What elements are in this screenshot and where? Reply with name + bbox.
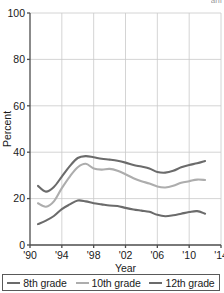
chart-figure: ani 020406080100'90'94'98'02'06'10'14Yea… [0,0,224,293]
y-tick-label: 100 [7,7,25,19]
x-tick-label: '94 [55,249,69,261]
y-tick-label: 40 [13,146,25,158]
x-tick-label: '90 [23,249,37,261]
legend-swatch-8th-grade [7,282,20,284]
x-axis-title: Year [115,262,137,272]
y-tick-label: 80 [13,53,25,65]
legend-label-8th-grade: 8th grade [23,277,66,289]
legend-swatch-12th-grade [149,282,162,284]
legend-entry-8th-grade: 8th grade [7,277,66,289]
y-axis-title: Percent [1,111,13,147]
legend-label-12th-grade: 12th grade [165,277,214,289]
line-chart: 020406080100'90'94'98'02'06'10'14YearPer… [0,0,224,272]
legend-label-10th-grade: 10th grade [92,277,141,289]
legend-entry-12th-grade: 12th grade [149,277,214,289]
y-tick-label: 20 [13,192,25,204]
x-tick-label: '06 [150,249,164,261]
series-line-8th-grade [38,200,205,224]
x-tick-label: '10 [182,249,196,261]
x-tick-label: '98 [87,249,101,261]
chart-legend: 8th grade 10th grade 12th grade [2,274,220,291]
x-tick-label: '14 [214,249,224,261]
legend-entry-10th-grade: 10th grade [76,277,141,289]
y-tick-label: 60 [13,100,25,112]
legend-swatch-10th-grade [76,282,89,284]
series-line-10th-grade [38,164,205,207]
x-tick-label: '02 [119,249,133,261]
